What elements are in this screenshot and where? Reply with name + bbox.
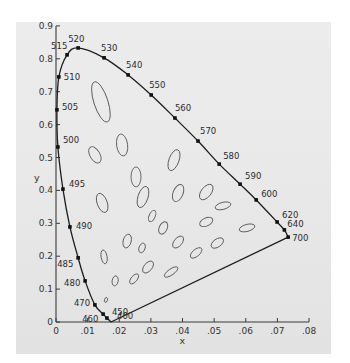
wavelength-label: 560 bbox=[175, 103, 191, 113]
wavelength-marker bbox=[275, 220, 279, 224]
ellipse bbox=[140, 259, 155, 275]
wavelength-label: 570 bbox=[200, 126, 216, 136]
wavelength-marker bbox=[101, 312, 105, 316]
ellipse bbox=[94, 192, 110, 214]
wavelength-marker bbox=[56, 145, 60, 149]
wavelength-label: 450 bbox=[112, 307, 128, 317]
x-tick-label: .06 bbox=[239, 326, 254, 336]
wavelength-marker bbox=[173, 116, 177, 120]
wavelength-labels: 4004504604704804854904955005055105155205… bbox=[51, 34, 308, 324]
wavelength-label: 540 bbox=[126, 60, 142, 70]
chromaticity-diagram: 00.10.20.30.40.50.60.70.80.90.01.02.03.0… bbox=[0, 0, 350, 363]
wavelength-label: 510 bbox=[64, 72, 80, 82]
ellipse bbox=[131, 167, 141, 187]
wavelength-label: 485 bbox=[57, 259, 73, 269]
ellipse bbox=[209, 236, 225, 251]
wavelength-marker bbox=[196, 139, 200, 143]
wavelength-label: 590 bbox=[245, 171, 261, 181]
wavelength-marker bbox=[254, 198, 258, 202]
wavelength-label: 495 bbox=[69, 179, 85, 189]
wavelength-marker bbox=[217, 162, 221, 166]
ellipse bbox=[197, 182, 216, 202]
wavelength-marker bbox=[83, 279, 87, 283]
x-tick-label: 0 bbox=[53, 326, 59, 336]
ellipse bbox=[170, 183, 186, 203]
wavelength-marker bbox=[102, 56, 106, 60]
wavelength-marker bbox=[126, 73, 130, 77]
wavelength-label: 580 bbox=[223, 151, 239, 161]
wavelength-label: 530 bbox=[101, 43, 117, 53]
wavelength-marker bbox=[149, 93, 153, 97]
ellipse bbox=[147, 209, 158, 222]
ellipse bbox=[88, 80, 114, 124]
ellipse bbox=[214, 200, 231, 211]
wavelength-label: 480 bbox=[64, 278, 80, 288]
ellipse bbox=[171, 234, 186, 250]
x-tick-label: .01 bbox=[80, 326, 94, 336]
wavelength-marker bbox=[61, 187, 65, 191]
ellipse bbox=[138, 242, 147, 253]
wavelength-marker bbox=[55, 108, 59, 112]
y-tick-label: 0.2 bbox=[39, 251, 53, 261]
ellipse bbox=[163, 265, 180, 279]
wavelength-label: 515 bbox=[51, 41, 67, 51]
y-tick-label: 0.9 bbox=[39, 21, 54, 31]
spectral-locus bbox=[55, 46, 290, 322]
y-tick-label: 0.8 bbox=[39, 54, 54, 64]
wavelength-marker bbox=[65, 53, 69, 57]
y-tick-label: 0.7 bbox=[39, 87, 53, 97]
wavelength-label: 460 bbox=[82, 314, 98, 324]
x-axis-title: x bbox=[180, 335, 186, 346]
wavelength-marker bbox=[105, 316, 109, 320]
x-tick-label: .03 bbox=[144, 326, 158, 336]
wavelength-label: 600 bbox=[261, 189, 277, 199]
wavelength-label: 505 bbox=[62, 102, 78, 112]
ellipse bbox=[86, 145, 104, 166]
ellipse bbox=[100, 249, 108, 264]
wavelength-label: 470 bbox=[74, 298, 90, 308]
wavelength-marker bbox=[76, 256, 80, 260]
y-axis-title: y bbox=[34, 172, 40, 183]
x-tick-label: .08 bbox=[302, 326, 317, 336]
ellipse bbox=[189, 246, 204, 260]
wavelength-label: 700 bbox=[292, 233, 308, 243]
wavelength-marker bbox=[68, 225, 72, 229]
y-tick-label: 0.5 bbox=[39, 153, 53, 163]
wavelength-marker bbox=[283, 228, 287, 232]
x-tick-label: .02 bbox=[112, 326, 126, 336]
x-tick-label: .07 bbox=[270, 326, 284, 336]
wavelength-marker bbox=[286, 235, 290, 239]
y-tick-label: 0.1 bbox=[39, 284, 53, 294]
wavelength-label: 520 bbox=[68, 34, 84, 44]
wavelength-marker bbox=[238, 182, 242, 186]
ellipse bbox=[111, 275, 119, 286]
wavelength-marker bbox=[57, 75, 61, 79]
wavelength-marker bbox=[76, 46, 80, 50]
wavelength-label: 490 bbox=[76, 221, 92, 231]
ellipse bbox=[198, 215, 214, 228]
ellipse bbox=[238, 222, 255, 233]
ellipse bbox=[115, 133, 129, 156]
ellipse bbox=[104, 297, 109, 303]
wavelength-label: 500 bbox=[63, 135, 79, 145]
wavelength-label: 640 bbox=[287, 219, 303, 229]
wavelength-label: 550 bbox=[149, 80, 165, 90]
x-tick-label: .05 bbox=[207, 326, 221, 336]
ellipse bbox=[135, 185, 151, 209]
y-tick-label: 0.4 bbox=[39, 185, 54, 195]
ellipse bbox=[128, 272, 140, 285]
ellipse bbox=[166, 148, 183, 172]
wavelength-marker bbox=[93, 303, 97, 307]
ellipse bbox=[121, 233, 132, 249]
y-tick-label: 0.6 bbox=[39, 120, 54, 130]
y-tick-label: 0.3 bbox=[39, 218, 53, 228]
ellipse bbox=[157, 220, 170, 235]
